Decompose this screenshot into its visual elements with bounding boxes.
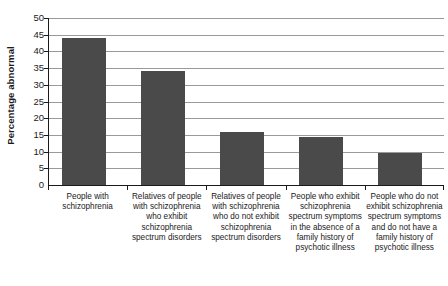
plot-area bbox=[48, 18, 444, 185]
gridline-35 bbox=[48, 68, 444, 69]
category-label-4: People who do not exhibit schizophrenia … bbox=[365, 192, 444, 253]
y-tick-label-30: 30 bbox=[18, 80, 44, 90]
y-axis-tick-labels: 50 45 40 35 30 25 20 15 10 5 0 bbox=[14, 18, 44, 185]
y-tick-label-15: 15 bbox=[18, 130, 44, 140]
y-tick-label-40: 40 bbox=[18, 46, 44, 56]
bar-chart: Percentage abnormal 50 45 40 35 30 25 20… bbox=[0, 0, 448, 286]
y-tick-label-50: 50 bbox=[18, 13, 44, 23]
x-tick-3 bbox=[286, 186, 287, 190]
category-label-2: Relatives of people with schizophrenia w… bbox=[206, 192, 285, 243]
bar-relatives-with-spectrum-disorders bbox=[141, 71, 185, 185]
bar-people-with-schizophrenia bbox=[62, 38, 106, 185]
x-tick-4 bbox=[365, 186, 366, 190]
x-tick-0 bbox=[48, 186, 49, 190]
gridline-40 bbox=[48, 51, 444, 52]
y-tick-label-20: 20 bbox=[18, 113, 44, 123]
category-label-1: Relatives of people with schizophrenia w… bbox=[127, 192, 206, 243]
gridline-50 bbox=[48, 18, 444, 19]
x-tick-1 bbox=[127, 186, 128, 190]
y-tick-label-10: 10 bbox=[18, 147, 44, 157]
category-label-3: People who exhibit schizophrenia spectru… bbox=[286, 192, 365, 253]
gridline-30 bbox=[48, 85, 444, 86]
category-label-0: People with schizophrenia bbox=[48, 192, 127, 212]
bar-no-symptoms-no-family-history bbox=[378, 153, 422, 185]
gridline-20 bbox=[48, 118, 444, 119]
y-tick-label-45: 45 bbox=[18, 30, 44, 40]
x-axis-category-labels: People with schizophrenia Relatives of p… bbox=[48, 192, 444, 286]
gridline-25 bbox=[48, 102, 444, 103]
y-tick-label-25: 25 bbox=[18, 97, 44, 107]
bar-relatives-without-spectrum-disorders bbox=[220, 132, 264, 185]
y-axis-line bbox=[48, 18, 49, 186]
gridline-45 bbox=[48, 35, 444, 36]
y-tick-label-5: 5 bbox=[18, 163, 44, 173]
x-axis-line bbox=[48, 185, 444, 186]
x-tick-5 bbox=[443, 186, 444, 190]
y-tick-label-35: 35 bbox=[18, 63, 44, 73]
bar-symptoms-no-family-history bbox=[299, 137, 343, 185]
y-tick-label-0: 0 bbox=[18, 180, 44, 190]
x-tick-2 bbox=[206, 186, 207, 190]
